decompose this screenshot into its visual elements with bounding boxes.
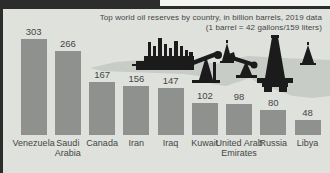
bar (89, 82, 115, 135)
chart-title-block: Top world oil reserves by country, in bi… (100, 13, 322, 33)
chart-title: Top world oil reserves by country, in bi… (100, 13, 322, 23)
chart-subtitle: (1 barrel = 42 gallons/159 liters) (100, 23, 322, 33)
bar (260, 110, 286, 135)
bar-value-label: 147 (148, 75, 194, 87)
bar (21, 39, 47, 135)
oil-reserves-infographic: Top world oil reserves by country, in bi… (0, 0, 330, 173)
bar-category-label: Libya (284, 139, 330, 149)
bar-value-label: 266 (45, 38, 91, 50)
bar-value-label: 303 (11, 26, 57, 38)
bar (123, 86, 149, 135)
top-accent-bar (0, 0, 160, 9)
bar (158, 88, 184, 135)
bar (192, 103, 218, 135)
bar (295, 120, 321, 135)
bar (226, 104, 252, 135)
top-rule-line (160, 6, 330, 9)
bar-value-label: 48 (285, 107, 330, 119)
left-accent-bar (0, 0, 3, 173)
bar (55, 51, 81, 135)
